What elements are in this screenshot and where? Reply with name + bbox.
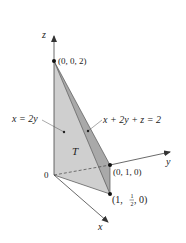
- y-axis-label: y: [165, 156, 171, 167]
- tetrahedron-diagram: z y x 0 (0, 0, 2) (0, 1, 0) (1, 1 2 , 0)…: [0, 0, 186, 243]
- point-label-y: (0, 1, 0): [113, 167, 142, 177]
- point-label-z: (0, 0, 2): [58, 56, 87, 66]
- leader-dot: [63, 131, 65, 133]
- region-label: T: [72, 145, 79, 157]
- point-label-x-suffix: , 0): [134, 194, 147, 206]
- point-0-0-2: [52, 59, 56, 63]
- z-axis-label: z: [41, 29, 46, 40]
- point-0-1-0: [108, 163, 112, 167]
- plane-label-left: x = 2y: [11, 113, 38, 124]
- leader-dot: [87, 130, 89, 132]
- origin-label: 0: [44, 170, 49, 180]
- leader-right: [88, 120, 102, 131]
- y-axis: [110, 152, 170, 165]
- plane-label-right: x + 2y + z = 2: [102, 114, 161, 125]
- point-label-x: (1, 1 2 , 0): [112, 193, 147, 207]
- point-label-x-prefix: (1,: [112, 194, 123, 206]
- x-axis-label: x: [97, 221, 103, 232]
